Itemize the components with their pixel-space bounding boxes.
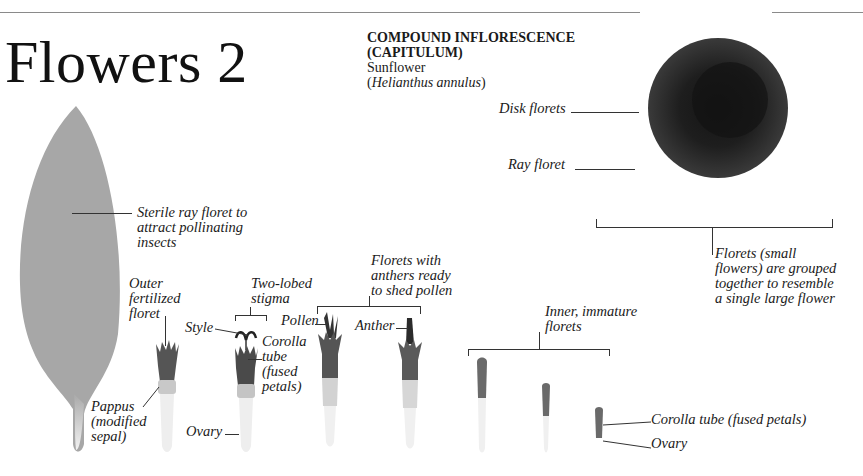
label-style: Style — [185, 320, 213, 335]
section-heading: COMPOUND INFLORESCENCE (CAPITULUM) Sunfl… — [367, 30, 575, 90]
bracket-inner — [468, 349, 610, 350]
floret-with-pollen — [314, 310, 346, 450]
label-sterile-ray-floret: Sterile ray floret to attract pollinatin… — [137, 205, 247, 250]
page-title: Flowers 2 — [5, 32, 248, 92]
leader-sterile-ray — [72, 213, 132, 214]
sunflower-illustration — [590, 0, 850, 230]
heading-line-1: COMPOUND INFLORESCENCE — [367, 30, 575, 45]
label-inner-immature-florets: Inner, immature florets — [545, 304, 637, 334]
leader-outer-floret — [165, 316, 166, 346]
leader-ovary-2 — [603, 440, 653, 450]
leader-corolla-long — [603, 419, 653, 429]
label-ovary-1: Ovary — [186, 424, 222, 439]
leader-pappus — [141, 385, 161, 409]
leader-pollen — [315, 324, 327, 325]
leader-corolla-short — [248, 359, 262, 360]
leader-anther — [396, 328, 408, 329]
label-florets-grouped: Florets (small flowers) are grouped toge… — [715, 246, 836, 306]
inner-floret-1 — [474, 356, 490, 456]
label-ray-floret: Ray floret — [508, 157, 565, 172]
label-outer-fertilized-floret: Outer fertilized floret — [129, 276, 181, 321]
label-florets-with-anthers: Florets with anthers ready to shed polle… — [371, 253, 452, 298]
label-pappus: Pappus (modified sepal) — [91, 399, 147, 444]
label-anther: Anther — [355, 318, 394, 333]
label-pollen: Pollen — [281, 313, 319, 328]
scientific-name: (Helianthus annulus) — [367, 75, 575, 90]
leader-ray-floret — [575, 169, 635, 170]
floret-with-anther — [394, 316, 426, 452]
bracket-anthers — [317, 306, 421, 307]
bracket-stigma — [235, 315, 267, 316]
floret-with-stigma — [230, 328, 262, 456]
label-two-lobed-stigma: Two-lobed stigma — [251, 276, 312, 306]
bracket-florets — [596, 227, 833, 228]
label-corolla-tube-long: Corolla tube (fused petals) — [651, 412, 806, 427]
leader-ovary-1 — [225, 434, 239, 435]
label-ovary-2: Ovary — [651, 436, 687, 451]
common-name: Sunflower — [367, 60, 575, 75]
top-rule-left — [0, 12, 640, 13]
leader-disk-florets — [571, 112, 639, 113]
leader-style — [215, 327, 250, 337]
label-disk-florets: Disk florets — [499, 101, 566, 116]
heading-line-2: (CAPITULUM) — [367, 45, 575, 60]
label-corolla-tube-short: Corolla tube (fused petals) — [262, 334, 307, 394]
inner-floret-2 — [540, 382, 552, 456]
